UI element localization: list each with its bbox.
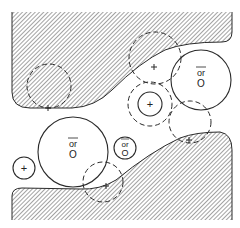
label-o: O [197,78,205,89]
label-or: or [197,68,205,78]
plus-icon: + [21,162,27,174]
label-small-center: or O [121,139,129,158]
particle-channel-diagram: or O or O or O + + [0,0,240,228]
label-o: O [69,149,77,160]
label-o: O [121,148,128,158]
plus-icon: + [147,98,153,110]
label-large-left: or O [68,138,78,160]
label-or: or [69,139,77,149]
label-large-right: or O [196,67,206,89]
plus-mark-icon [151,64,157,70]
